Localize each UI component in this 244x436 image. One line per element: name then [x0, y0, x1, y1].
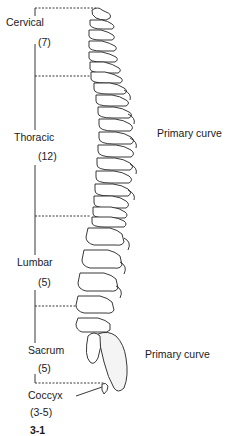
region-label-cervical: Cervical [6, 16, 44, 28]
region-count-thoracic: (12) [38, 150, 57, 162]
coccyx [102, 383, 108, 394]
region-count-lumbar: (5) [38, 276, 51, 288]
primary-curve-label-thoracic: Primary curve [157, 127, 222, 139]
coccyx-leader-line [76, 386, 105, 396]
primary-curve-label-sacral: Primary curve [145, 348, 210, 360]
region-count-sacrum: (5) [38, 362, 51, 374]
region-count-cervical: (7) [38, 36, 51, 48]
lumbar-vertebrae [76, 228, 124, 332]
region-label-coccyx: Coccyx [28, 389, 62, 401]
region-label-thoracic: Thoracic [14, 131, 54, 143]
thoracic-vertebrae [92, 83, 134, 227]
vertebral-column [76, 8, 136, 394]
region-label-sacrum: Sacrum [28, 344, 64, 356]
region-count-coccyx: (3-5) [30, 406, 52, 418]
region-label-lumbar: Lumbar [17, 256, 53, 268]
cervical-vertebrae [89, 8, 122, 83]
sacrum [86, 332, 127, 391]
figure-caption-fragment: 3-1 [30, 424, 45, 436]
